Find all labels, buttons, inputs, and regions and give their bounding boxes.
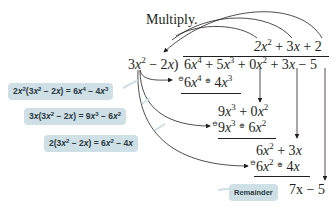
subtract-rule-1 (181, 93, 241, 94)
callout-product-2: 3x(3x2 − 2x) = 9x3 − 6x2 (24, 108, 126, 125)
subtract-rule-3 (254, 176, 310, 177)
dividend: 6x4 + 5x3 + 0x2 + 3x − 5 (184, 58, 317, 72)
instruction-label: Multiply. (146, 13, 198, 27)
subtract-rule-2 (218, 138, 276, 139)
subtract-line-2: ⊖9x3 ⊕ 6x2 (212, 121, 266, 137)
quotient: 2x2 + 3x + 2 (254, 40, 322, 54)
callout-remainder: Remainder (229, 184, 278, 201)
divisor: 3x2 − 2x) (128, 58, 179, 72)
subtract-line-3: ⊖6x2 ⊕ 4x (250, 160, 300, 176)
bring-down-2: 6x2 + 3x (256, 144, 302, 158)
subtract-line-1: ⊖6x4 ⊕ 4x3 (178, 76, 232, 92)
remainder-value: 7x − 5 (289, 183, 325, 197)
quotient-term-1: 2x (254, 39, 267, 54)
callout-product-1: 2x2(3x2 − 2x) = 6x4 − 4x3 (8, 83, 113, 100)
callout-product-3: 2(3x2 − 2x) = 6x2 − 4x (44, 135, 138, 152)
bring-down-1: 9x3 + 0x2 (218, 105, 268, 119)
